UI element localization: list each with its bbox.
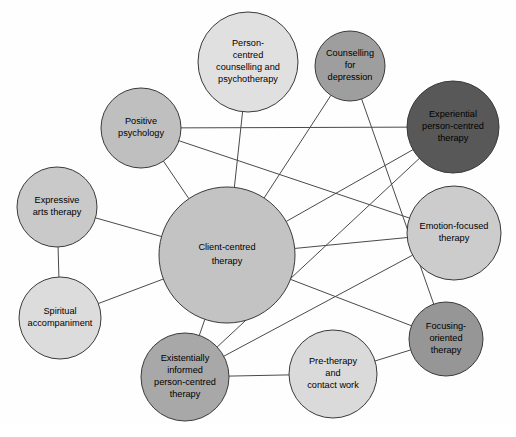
node-focusing-oriented-therapy[interactable]: Focusing-orientedtherapy bbox=[409, 302, 483, 376]
node-shape-existentially-informed-person-centred-therapy[interactable] bbox=[141, 333, 229, 421]
node-shape-pre-therapy-and-contact-work[interactable] bbox=[289, 330, 377, 418]
node-pre-therapy-and-contact-work[interactable]: Pre-therapyandcontact work bbox=[289, 330, 377, 418]
node-shape-expressive-arts-therapy[interactable] bbox=[17, 167, 97, 247]
edge-client-centred-therapy--experiential-person-centred-therapy bbox=[286, 150, 413, 222]
edge-expressive-arts-therapy--client-centred-therapy bbox=[95, 218, 161, 237]
node-shape-person-centred-counselling-and-psychotherapy[interactable] bbox=[198, 12, 298, 112]
edge-positive-psychology--client-centred-therapy bbox=[163, 161, 188, 199]
node-client-centred-therapy[interactable]: Client-centredtherapy bbox=[159, 187, 295, 323]
edge-existentially-informed-person-centred-therapy--pre-therapy-and-contact-work bbox=[229, 375, 289, 376]
bottom-margin bbox=[0, 423, 516, 437]
edge-client-centred-therapy--existentially-informed-person-centred-therapy bbox=[199, 319, 205, 335]
node-shape-focusing-oriented-therapy[interactable] bbox=[409, 302, 483, 376]
edge-client-centred-therapy--emotion-focused-therapy bbox=[295, 238, 408, 249]
edge-spiritual-accompaniment--client-centred-therapy bbox=[98, 279, 163, 304]
edge-client-centred-therapy--focusing-oriented-therapy bbox=[290, 279, 411, 325]
network-diagram: Client-centredtherapyPerson-centredcouns… bbox=[0, 0, 516, 437]
edge-person-centred-counselling-and-psychotherapy--client-centred-therapy bbox=[234, 112, 242, 188]
node-shape-experiential-person-centred-therapy[interactable] bbox=[407, 81, 499, 173]
node-shape-counselling-for-depression[interactable] bbox=[315, 31, 385, 101]
node-spiritual-accompaniment[interactable]: Spiritualaccompaniment bbox=[19, 277, 101, 359]
node-experiential-person-centred-therapy[interactable]: Experientialperson-centredtherapy bbox=[407, 81, 499, 173]
edge-pre-therapy-and-contact-work--focusing-oriented-therapy bbox=[375, 350, 411, 361]
node-emotion-focused-therapy[interactable]: Emotion-focusedtherapy bbox=[407, 186, 501, 280]
node-existentially-informed-person-centred-therapy[interactable]: Existentiallyinformedperson-centredthera… bbox=[141, 333, 229, 421]
network-svg: Client-centredtherapyPerson-centredcouns… bbox=[0, 0, 516, 437]
node-expressive-arts-therapy[interactable]: Expressivearts therapy bbox=[17, 167, 97, 247]
edge-expressive-arts-therapy--spiritual-accompaniment bbox=[58, 247, 59, 277]
nodes-layer: Client-centredtherapyPerson-centredcouns… bbox=[17, 12, 501, 421]
node-person-centred-counselling-and-psychotherapy[interactable]: Person-centredcounselling andpsychothera… bbox=[198, 12, 298, 112]
node-counselling-for-depression[interactable]: Counsellingfordepression bbox=[315, 31, 385, 101]
node-shape-spiritual-accompaniment[interactable] bbox=[19, 277, 101, 359]
node-shape-positive-psychology[interactable] bbox=[101, 88, 181, 168]
node-shape-emotion-focused-therapy[interactable] bbox=[407, 186, 501, 280]
edge-client-centred-therapy--counselling-for-depression bbox=[264, 95, 331, 198]
edge-positive-psychology--experiential-person-centred-therapy bbox=[181, 127, 407, 128]
node-positive-psychology[interactable]: Positivepsychology bbox=[101, 88, 181, 168]
node-shape-client-centred-therapy[interactable] bbox=[159, 187, 295, 323]
